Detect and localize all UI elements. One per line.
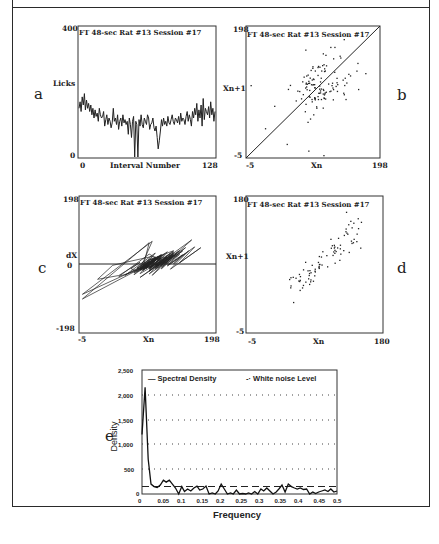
panel-e-box xyxy=(142,370,337,494)
panel-e-grid xyxy=(142,395,337,469)
panel-a-series xyxy=(79,94,215,157)
panel-d-points xyxy=(289,212,362,303)
panel-c-trajectory xyxy=(82,240,200,299)
panel-d-box xyxy=(246,196,383,333)
figure-plots xyxy=(0,0,439,544)
panel-e-spectral-line xyxy=(142,387,337,494)
panel-a-box xyxy=(78,26,216,158)
panel-b-identity-line xyxy=(246,26,380,158)
